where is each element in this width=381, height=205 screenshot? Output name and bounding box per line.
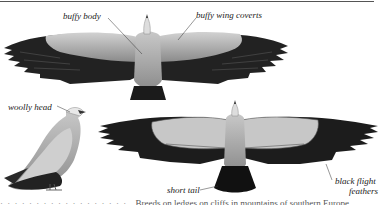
upper-tail	[130, 86, 166, 100]
label-black-flight-feathers-line1: black flight	[335, 176, 376, 186]
leader-woolly-head	[57, 106, 70, 112]
vulture-perched-figure	[4, 108, 86, 191]
upper-head	[144, 16, 151, 34]
vulture-upperside-figure	[4, 14, 288, 100]
caption-cutoff: · · · · · · · · · · · · · · · · · · Bree…	[0, 199, 381, 205]
leader-black-flight-feathers	[326, 164, 332, 180]
upper-body	[134, 32, 162, 88]
label-black-flight-feathers-line2: feathers	[349, 186, 378, 196]
vulture-illustrations	[0, 0, 381, 205]
caption-lead: · · · · · · · · · · · · · · · · · ·	[0, 199, 127, 205]
under-tail	[214, 166, 256, 193]
label-short-tail: short tail	[167, 185, 200, 195]
label-woolly-head: woolly head	[8, 102, 52, 112]
label-buffy-wing-coverts: buffy wing coverts	[196, 10, 262, 20]
under-body	[224, 114, 246, 171]
caption-text: Breeds on ledges on cliffs in mountains …	[135, 199, 349, 205]
label-buffy-body: buffy body	[63, 11, 101, 21]
